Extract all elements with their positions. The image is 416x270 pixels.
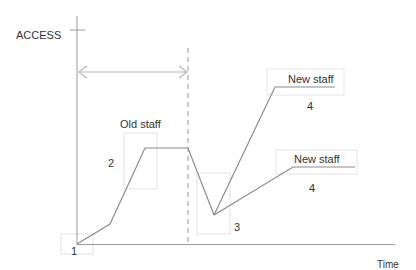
marker-2: 2 [108, 157, 114, 169]
box-3 [197, 173, 230, 234]
old-staff-label: Old staff [120, 118, 162, 130]
access-curve-old-staff [77, 148, 214, 244]
marker-3: 3 [234, 221, 240, 233]
y-axis-label: ACCESS [16, 29, 61, 41]
duration-arrow [79, 66, 187, 78]
x-axis-label: Time [377, 259, 399, 270]
marker-4-lower: 4 [309, 182, 315, 194]
new-staff-lower-label: New staff [294, 153, 341, 165]
access-over-time-diagram: ACCESS Time Old staff New staff New staf… [0, 0, 416, 270]
new-staff-upper-label: New staff [288, 73, 335, 85]
access-curve-new-staff-upper [214, 87, 335, 215]
marker-1: 1 [71, 245, 77, 257]
box-2 [124, 133, 157, 189]
marker-4-upper: 4 [307, 100, 313, 112]
